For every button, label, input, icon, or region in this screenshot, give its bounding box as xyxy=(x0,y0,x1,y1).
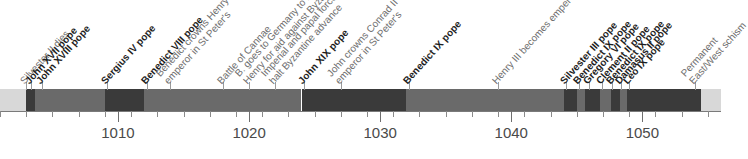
papacy-segment xyxy=(577,89,585,111)
axis-tick-minor xyxy=(708,111,709,117)
axis-tick-minor xyxy=(52,111,53,117)
axis-tick-major xyxy=(118,111,119,122)
axis-tick-minor xyxy=(131,111,132,117)
axis-tick-minor xyxy=(524,111,525,117)
axis-tick-label: 1040 xyxy=(495,124,528,141)
axis-tick-minor xyxy=(288,111,289,117)
papacy-segment xyxy=(585,89,601,111)
axis-tick-label: 1010 xyxy=(101,124,134,141)
axis-tick-minor xyxy=(105,111,106,117)
axis-tick-minor xyxy=(262,111,263,117)
axis-tick-label: 1030 xyxy=(363,124,396,141)
event-label: Benedict IX pope xyxy=(401,18,463,86)
papacy-segment xyxy=(406,89,563,111)
papacy-segment xyxy=(105,89,144,111)
event-label: John XVII pope xyxy=(23,25,80,86)
axis-tick-major xyxy=(642,111,643,122)
axis-tick-minor xyxy=(210,111,211,117)
axis-tick-minor xyxy=(184,111,185,117)
axis-tick-minor xyxy=(0,111,1,117)
event-label-line1: John XVII pope xyxy=(23,25,80,86)
axis-tick-minor xyxy=(26,111,27,117)
papacy-segment xyxy=(627,89,702,111)
papacy-segment xyxy=(600,89,610,111)
axis-tick-major xyxy=(249,111,250,122)
axis-line xyxy=(0,111,721,112)
axis-tick-label: 1020 xyxy=(232,124,265,141)
axis-tick-minor xyxy=(472,111,473,117)
papacy-segment xyxy=(302,89,407,111)
event-label-line1: Benedict IX pope xyxy=(401,18,463,86)
papacy-segment xyxy=(620,89,627,111)
axis-tick-minor xyxy=(446,111,447,117)
axis-tick-minor xyxy=(315,111,316,117)
papacy-segment xyxy=(611,89,620,111)
papacy-segment xyxy=(26,89,35,111)
papacy-segment-band xyxy=(0,89,721,111)
axis-tick-minor xyxy=(498,111,499,117)
axis-tick-minor xyxy=(551,111,552,117)
axis-tick-major xyxy=(511,111,512,122)
axis-tick-minor xyxy=(236,111,237,117)
axis-tick-minor xyxy=(655,111,656,117)
axis-tick-major xyxy=(380,111,381,122)
papacy-segment xyxy=(0,89,26,111)
axis-tick-minor xyxy=(341,111,342,117)
axis-tick-minor xyxy=(79,111,80,117)
axis-tick-minor xyxy=(157,111,158,117)
axis-tick-minor xyxy=(629,111,630,117)
axis-tick-label: 1050 xyxy=(626,124,659,141)
axis-tick-minor xyxy=(603,111,604,117)
axis-tick-minor xyxy=(577,111,578,117)
papacy-segment xyxy=(144,89,301,111)
axis-tick-minor xyxy=(367,111,368,117)
axis-tick-minor xyxy=(393,111,394,117)
event-label-line2: emperor in St Peter's xyxy=(333,4,408,86)
axis-tick-minor xyxy=(419,111,420,117)
papacy-segment xyxy=(701,89,721,111)
papacy-segment xyxy=(35,89,104,111)
event-label: PermanentEast/West schism xyxy=(678,12,747,86)
axis-tick-minor xyxy=(682,111,683,117)
papacy-segment xyxy=(564,89,577,111)
